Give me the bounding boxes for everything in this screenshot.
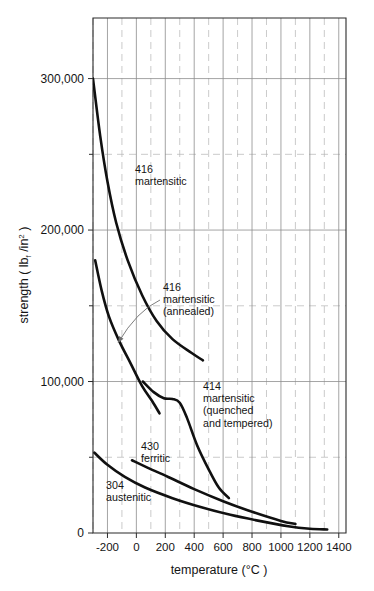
x-tick-label-200: 200	[156, 541, 175, 553]
x-tick-label-1000: 1000	[268, 541, 294, 553]
x-axis-title: temperature (°C )	[171, 563, 268, 577]
y-axis-title-end: )	[17, 227, 31, 235]
x-tick-label-1200: 1200	[297, 541, 323, 553]
y-tick-label-200,000: 200,000	[41, 223, 85, 237]
x-tick-label-0: 0	[133, 541, 139, 553]
y-axis-title: strength ( lbf /in2 )	[17, 227, 33, 324]
svg-text:strength ( lbf /in2 ): strength ( lbf /in2 )	[17, 227, 33, 324]
x-tick-label-600: 600	[214, 541, 233, 553]
x-tick-label-400: 400	[185, 541, 204, 553]
y-axis-title-main: strength ( lb	[17, 257, 31, 323]
y-tick-label-0: 0	[77, 526, 84, 540]
figure-root: -2000200400600800100012001400 0100,00020…	[0, 0, 374, 591]
strength-temperature-chart: -2000200400600800100012001400 0100,00020…	[0, 0, 374, 591]
x-tick-label-1400: 1400	[326, 541, 352, 553]
y-tick-label-300,000: 300,000	[41, 72, 85, 86]
y-tick-label-100,000: 100,000	[41, 375, 85, 389]
y-axis-title-mid: /in	[17, 239, 31, 256]
x-axis-tick-labels: -2000200400600800100012001400	[96, 541, 352, 553]
x-tick-label--200: -200	[96, 541, 119, 553]
x-tick-label-800: 800	[242, 541, 261, 553]
